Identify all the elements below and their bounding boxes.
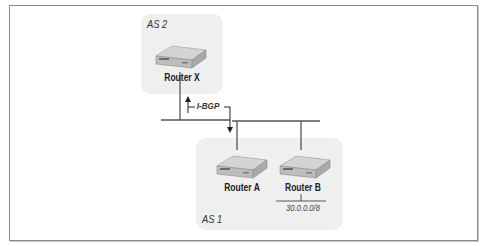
ibgp-arrow-down xyxy=(224,107,230,130)
router-b-icon xyxy=(276,152,332,182)
subnet-label: 30.0.0.0/8 xyxy=(278,203,329,213)
connection-lines xyxy=(0,0,480,246)
router-a-icon xyxy=(213,152,269,182)
router-b-label: Router B xyxy=(278,182,329,193)
router-x-label: Router X xyxy=(157,72,208,83)
router-a-label: Router A xyxy=(217,182,268,193)
ibgp-label: I-BGP xyxy=(195,101,221,111)
router-x-icon xyxy=(152,42,208,72)
